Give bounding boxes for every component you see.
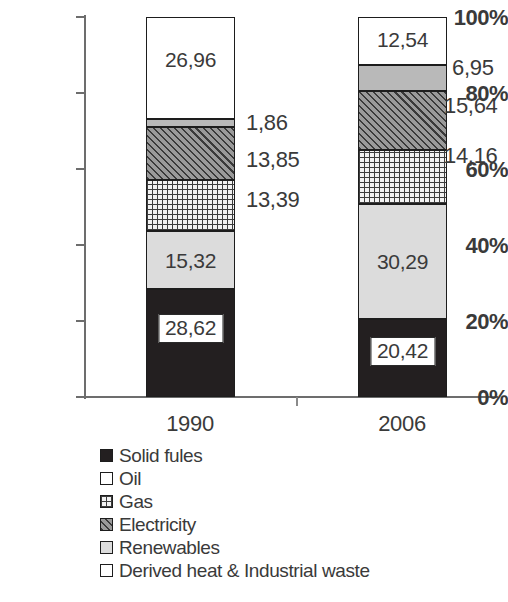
value-label-2006-derived-heat: 30,29 (373, 249, 432, 275)
segment-2006-gas (358, 150, 447, 204)
value-label-1990-derived-heat: 15,32 (161, 248, 220, 274)
legend-item-renewables[interactable]: Renewables (100, 536, 370, 559)
x-axis-label-1990: 1990 (130, 411, 250, 437)
chart-legend: Solid fules Oil Gas Electricity Renewabl… (100, 444, 370, 582)
solid-black-swatch-icon (100, 449, 113, 462)
legend-item-solid-fules[interactable]: Solid fules (100, 444, 370, 467)
bar-2006: 12,54 30,29 20,42 (358, 17, 447, 397)
y-tick-mark-80 (76, 92, 86, 94)
legend-label-gas: Gas (119, 492, 153, 511)
segment-1990-gas (146, 180, 235, 231)
value-label-2006-electricity: 15,64 (444, 93, 498, 119)
value-label-1990-renewables: 1,86 (246, 110, 288, 136)
segment-2006-renewables (358, 65, 447, 91)
value-label-2006-solid-fuels: 20,42 (370, 337, 435, 366)
y-tick-mark-60 (76, 168, 86, 170)
gray-swatch-icon (100, 541, 113, 554)
legend-item-gas[interactable]: Gas (100, 490, 370, 513)
y-tick-mark-0 (76, 396, 86, 398)
y-tick-mark-100 (76, 16, 86, 18)
x-axis-label-2006: 2006 (342, 411, 462, 437)
value-label-2006-oil: 12,54 (373, 27, 432, 53)
segment-1990-derived-heat: 15,32 (146, 231, 235, 289)
white-swatch-icon (100, 472, 113, 485)
segment-1990-renewables (146, 119, 235, 127)
legend-label-solid-fules: Solid fules (119, 446, 202, 465)
y-tick-mark-40 (76, 244, 86, 246)
y-axis-line (84, 15, 86, 399)
segment-1990-oil: 26,96 (146, 17, 235, 119)
value-label-2006-renewables: 6,95 (452, 55, 494, 81)
stacked-bar-chart: 100% 80% 60% 40% 20% 0% 26,96 15,32 28,6… (0, 0, 508, 602)
segment-2006-electricity (358, 91, 447, 150)
value-label-1990-gas: 13,39 (246, 187, 300, 213)
y-tick-mark-20 (76, 320, 86, 322)
legend-item-derived-heat[interactable]: Derived heat & Industrial waste (100, 559, 370, 582)
value-label-2006-gas: 14,16 (444, 143, 498, 169)
segment-2006-solid-fuels: 20,42 (358, 319, 447, 397)
hatch-swatch-icon (100, 518, 113, 531)
bar-1990: 26,96 15,32 28,62 (146, 17, 235, 397)
legend-label-renewables: Renewables (119, 538, 220, 557)
segment-2006-derived-heat: 30,29 (358, 204, 447, 319)
legend-label-electricity: Electricity (119, 515, 196, 534)
value-label-1990-solid-fuels: 28,62 (158, 314, 223, 343)
white-swatch-icon-2 (100, 564, 113, 577)
legend-item-oil[interactable]: Oil (100, 467, 370, 490)
value-label-1990-electricity: 13,85 (246, 147, 300, 173)
segment-1990-electricity (146, 127, 235, 180)
legend-item-electricity[interactable]: Electricity (100, 513, 370, 536)
grid-swatch-icon (100, 495, 113, 508)
legend-label-derived-heat: Derived heat & Industrial waste (119, 561, 370, 580)
legend-label-oil: Oil (119, 469, 141, 488)
segment-2006-oil: 12,54 (358, 17, 447, 65)
value-label-1990-oil: 26,96 (161, 47, 220, 73)
segment-1990-solid-fuels: 28,62 (146, 289, 235, 397)
x-tick-mark-mid (296, 397, 298, 406)
